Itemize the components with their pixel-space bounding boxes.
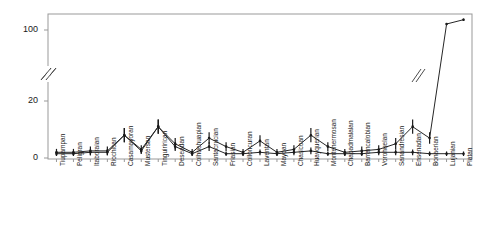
x-axis-label-peligran: Peligran — [76, 142, 83, 166]
data-point — [72, 152, 75, 155]
data-point — [276, 152, 279, 155]
x-axis-label-tinguirirican: Tinguirirican — [161, 131, 168, 166]
x-axis-label-bonaerian: Bonaerian — [432, 136, 439, 166]
x-axis-label-chapadmalalan: Chapadmalalan — [347, 120, 354, 166]
data-point — [327, 145, 330, 148]
data-point — [55, 152, 58, 155]
data-point — [208, 137, 211, 140]
data-point — [208, 145, 211, 148]
data-point — [445, 23, 448, 26]
data-point — [89, 151, 92, 154]
x-axis-label-barrancalobian: Barrancalobian — [364, 122, 371, 166]
data-point — [310, 134, 313, 137]
x-axis-label-montehermosan: Montehermosan — [330, 119, 337, 166]
x-axis-label-huayquerian: Huayquerian — [313, 129, 320, 166]
data-point — [106, 151, 109, 154]
y-axis-break-symbol — [41, 66, 56, 82]
data-point — [259, 151, 262, 154]
data-point — [174, 145, 177, 148]
x-axis-label-laventan: Laventan — [263, 139, 270, 166]
x-axis-label-tiupampan: Tiupampan — [59, 134, 66, 166]
data-point — [462, 18, 465, 21]
x-axis-label-colhuehuapian: Colhuehuapian — [195, 122, 202, 166]
x-axis-label-sanandresian: Sanandresian — [398, 126, 405, 166]
x-axis-label-vorohuelan: Vorohuelan — [381, 133, 388, 166]
data-point — [377, 151, 380, 154]
line-break-symbol — [412, 67, 425, 84]
data-point — [462, 152, 465, 155]
x-axis-label-platan: Platan — [466, 148, 473, 166]
x-axis-label-deseadan: Deseadan — [178, 136, 185, 166]
x-axis-label-mustersan: Mustersan — [144, 136, 151, 166]
data-point — [344, 152, 347, 155]
data-point — [293, 151, 296, 154]
data-point — [394, 142, 397, 145]
x-axis-label-ensenadan: Ensenadan — [415, 133, 422, 166]
x-axis-label-casamayoran: Casamayoran — [127, 126, 134, 166]
data-point — [411, 125, 414, 128]
data-point — [242, 152, 245, 155]
data-point — [123, 134, 126, 137]
x-axis-label-itaboraian: Itaboraian — [93, 137, 100, 166]
x-axis-label-riochican: Riochican — [110, 137, 117, 166]
x-axis-label-colloncuran: Colloncuran — [246, 131, 253, 166]
data-point — [428, 152, 431, 155]
data-point — [157, 125, 160, 128]
data-point — [411, 151, 414, 154]
data-point — [327, 152, 330, 155]
data-point — [225, 152, 228, 155]
data-point — [310, 150, 313, 153]
chart-container: 020100 TiupampanPeligranItaboraianRiochi… — [0, 0, 482, 239]
y-axis-label-100: 100 — [8, 24, 38, 34]
x-axis-label-mayoan: Mayoan — [280, 143, 287, 166]
data-point — [259, 140, 262, 143]
x-axis-label-lujanian: Lujanian — [449, 141, 456, 166]
x-axis-label-santacrucian: Santacrucian — [212, 128, 219, 166]
chart-plot-area — [0, 0, 482, 239]
data-point — [360, 152, 363, 155]
data-point — [225, 145, 228, 148]
y-axis-label-20: 20 — [8, 95, 38, 105]
data-point — [445, 152, 448, 155]
y-axis-label-0: 0 — [8, 152, 38, 162]
x-axis-label-chasicoan: Chasicoan — [297, 135, 304, 166]
x-axis-label-friasian: Friasian — [229, 143, 236, 166]
data-point — [428, 137, 431, 140]
data-point — [140, 150, 143, 153]
data-point — [394, 151, 397, 154]
data-point — [191, 152, 194, 155]
